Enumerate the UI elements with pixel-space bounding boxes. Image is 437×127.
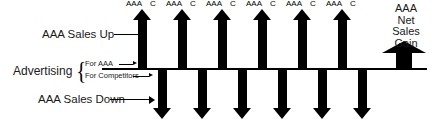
baseline-tick-c: C xyxy=(310,0,316,8)
down-arrow-head xyxy=(273,108,291,119)
up-arrow-shaft xyxy=(258,18,267,68)
down-arrow-head xyxy=(193,108,211,119)
baseline-tick-c: C xyxy=(190,0,196,8)
for-aaa-leader-arrow xyxy=(119,64,133,65)
net-gain-line-4: Gain xyxy=(378,38,434,50)
down-arrow-shaft xyxy=(358,69,367,109)
baseline-tick-c: C xyxy=(350,0,356,8)
baseline-tick-c: C xyxy=(270,0,276,8)
for-competitors-leader-arrow xyxy=(133,76,149,77)
baseline-tick-aaa: AAA xyxy=(246,0,262,8)
down-arrow-shaft xyxy=(238,69,247,109)
baseline-tick-aaa: AAA xyxy=(326,0,342,8)
baseline-tick-aaa: AAA xyxy=(126,0,142,8)
net-gain-line-1: AAA xyxy=(378,3,434,15)
down-arrow-head xyxy=(353,108,371,119)
up-arrow-shaft xyxy=(298,18,307,68)
net-gain-arrow-shaft xyxy=(396,51,412,68)
baseline-tick-aaa: AAA xyxy=(286,0,302,8)
up-arrow-shaft xyxy=(178,18,187,68)
up-arrow-shaft xyxy=(218,18,227,68)
baseline-tick-aaa: AAA xyxy=(206,0,222,8)
sales-down-leader-arrow xyxy=(110,99,150,100)
down-arrow-head xyxy=(313,108,331,119)
up-arrow-shaft xyxy=(138,18,147,68)
down-arrow-shaft xyxy=(158,69,167,109)
net-sales-gain-caption: AAA Net Sales Gain xyxy=(378,3,434,49)
baseline-tick-aaa: AAA xyxy=(166,0,182,8)
down-arrow-head xyxy=(233,108,251,119)
sales-up-leader-arrow xyxy=(114,34,140,35)
baseline-axis xyxy=(102,68,427,70)
advertising-label: Advertising xyxy=(13,65,72,77)
baseline-tick-c: C xyxy=(150,0,156,8)
for-competitors-label: For Competitors xyxy=(85,72,139,80)
diagram-canvas: AAA Sales Up AAA Sales Down Advertising … xyxy=(0,0,437,127)
down-arrow-shaft xyxy=(198,69,207,109)
up-arrow-shaft xyxy=(338,18,347,68)
sales-up-label: AAA Sales Up xyxy=(42,29,114,41)
baseline-tick-c: C xyxy=(230,0,236,8)
net-gain-line-3: Sales xyxy=(378,26,434,38)
down-arrow-shaft xyxy=(278,69,287,109)
down-arrow-head xyxy=(153,108,171,119)
for-aaa-label: For AAA xyxy=(85,60,113,68)
down-arrow-shaft xyxy=(318,69,327,109)
